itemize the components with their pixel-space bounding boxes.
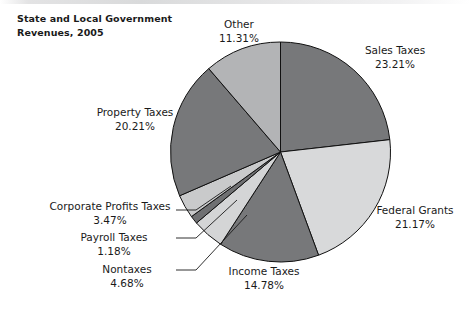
slice-label-payroll-taxes: Payroll Taxes 1.18% <box>52 231 176 258</box>
pie-slices <box>170 42 390 262</box>
slice-label-sales-taxes: Sales Taxes 23.21% <box>340 44 450 71</box>
slice-label-nontaxes: Nontaxes 4.68% <box>78 263 176 290</box>
slice-label-income-taxes: Income Taxes 14.78% <box>214 265 314 292</box>
slice-label-federal-grants: Federal Grants 21.17% <box>364 204 466 231</box>
slice-label-corporate-profits-taxes: Corporate Profits Taxes 3.47% <box>44 200 176 227</box>
slice-label-property-taxes: Property Taxes 20.21% <box>86 106 184 133</box>
chart-page: State and Local Government Revenues, 200… <box>0 0 470 309</box>
slice-label-other: Other 11.31% <box>196 18 282 45</box>
